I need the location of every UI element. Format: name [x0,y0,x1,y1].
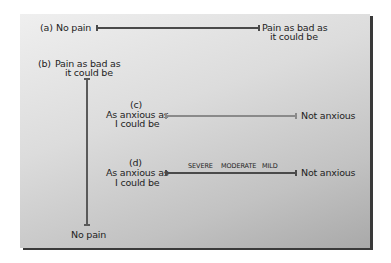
scale-a-left-label: No pain [56,23,91,33]
scale-d-descriptor-mild: MILD [262,162,278,170]
scale-c-left-label-2: I could be [115,119,159,129]
scale-b-line [86,78,88,226]
scale-a-tag: (a) [40,23,53,33]
scale-b-bottom-label: No pain [71,230,106,240]
scale-c-right-label: Not anxious [301,111,355,121]
scale-a-line [96,27,260,29]
scale-b-top-label-2: it could be [65,68,113,78]
scale-c-line [165,115,297,117]
scale-d-line [165,172,297,174]
scale-d-right-label: Not anxious [301,168,355,178]
scale-d-descriptor-severe: SEVERE [188,162,213,170]
scale-d-descriptor-moderate: MODERATE [221,162,256,170]
scale-d-left-label-2: I could be [115,178,159,188]
scale-a-right-label-2: it could be [270,32,318,42]
diagram-panel [20,14,370,248]
scale-b-tag: (b) [38,59,51,69]
